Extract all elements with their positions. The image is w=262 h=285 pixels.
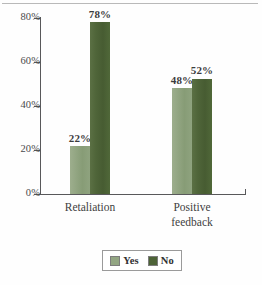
chart-legend: Yes No xyxy=(102,250,182,271)
legend-item-no[interactable]: No xyxy=(148,255,174,266)
legend-label-no: No xyxy=(161,255,174,266)
bar-retaliation-no[interactable] xyxy=(90,22,110,194)
x-category-label-retaliation: Retaliation xyxy=(40,200,140,215)
bar-value-positive-feedback-no: 52% xyxy=(180,64,224,76)
bar-retaliation-yes[interactable] xyxy=(70,146,90,194)
bars-layer: 22% 78% 48% 52% xyxy=(0,0,262,194)
legend-label-yes: Yes xyxy=(123,255,138,266)
legend-swatch-no-icon xyxy=(148,256,158,266)
x-axis-line xyxy=(40,194,246,195)
bar-positive-feedback-yes[interactable] xyxy=(172,88,192,194)
legend-swatch-yes-icon xyxy=(110,256,120,266)
bar-positive-feedback-no[interactable] xyxy=(192,79,212,194)
bar-value-retaliation-no: 78% xyxy=(78,8,122,20)
legend-item-yes[interactable]: Yes xyxy=(110,255,138,266)
y-tick-group-0: 0% xyxy=(0,194,40,195)
x-category-label-positive-feedback: Positive feedback xyxy=(142,200,242,230)
bar-chart: 0% 20% 40% 60% 80% 22% 78% 48% xyxy=(0,0,262,285)
chart-page: 0% 20% 40% 60% 80% 22% 78% 48% xyxy=(0,0,262,285)
